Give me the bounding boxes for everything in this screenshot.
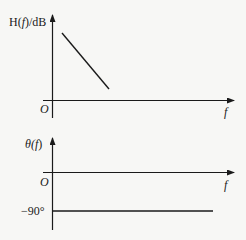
top-x-label: f — [224, 105, 229, 119]
bottom-origin-label: O — [40, 175, 49, 189]
bottom-y-label: θ(f) — [25, 137, 42, 151]
bottom-x-label: f — [224, 178, 229, 192]
top-y-label: H(f)/dB — [9, 15, 46, 29]
phase-plot: θ(f) O −90° f — [21, 137, 234, 230]
amplitude-curve — [62, 33, 109, 89]
frequency-response-diagram: H(f)/dB O f θ(f) O −90° f — [0, 0, 246, 240]
minus-90-tick-label: −90° — [21, 204, 45, 218]
top-origin-label: O — [40, 102, 49, 116]
amplitude-plot: H(f)/dB O f — [9, 15, 234, 119]
